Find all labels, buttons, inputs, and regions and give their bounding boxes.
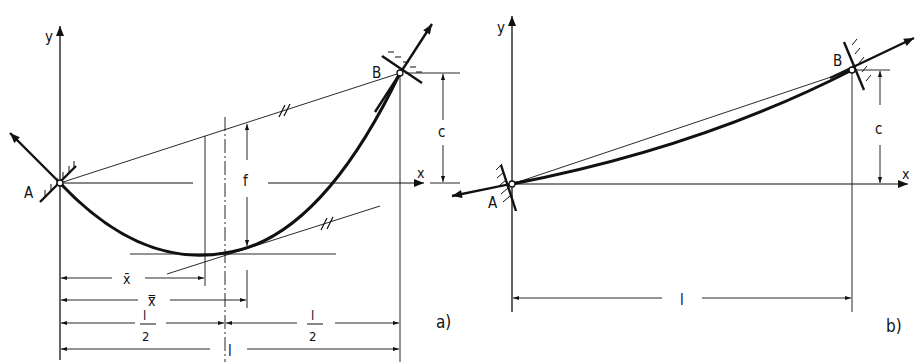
chord-ab-b <box>512 70 852 184</box>
point-a-label-a: A <box>24 184 34 202</box>
cable-sag-diagram: y x A B c f x̄ x̿ l 2 l 2 l a) <box>0 0 919 364</box>
panel-a <box>10 24 460 362</box>
panel-b <box>452 16 914 312</box>
panel-a-caption: a) <box>436 312 451 332</box>
panel-b-caption: b) <box>886 316 902 336</box>
xbar-label: x̄ <box>123 271 131 287</box>
c-label-a: c <box>438 123 445 141</box>
chord-ab-a <box>60 73 400 183</box>
support-b-panel-b <box>830 38 914 90</box>
half-l-num-2: l <box>311 308 314 323</box>
l-label-a: l <box>228 342 232 360</box>
y-axis-label-a: y <box>45 28 53 46</box>
y-axis-label-b: y <box>497 19 505 37</box>
l-label-b: l <box>680 291 684 309</box>
parallel-mark-tangent <box>321 217 333 230</box>
half-l-den-1: 2 <box>142 329 149 344</box>
xdbar-label: x̿ <box>148 293 156 309</box>
half-l-den-2: 2 <box>309 329 316 344</box>
x-axis-label-a: x <box>417 165 425 181</box>
point-b-label-b: B <box>833 52 842 70</box>
support-a-panel-a <box>10 133 80 203</box>
x-axis-label-b: x <box>902 166 910 182</box>
half-l-num-1: l <box>143 308 146 323</box>
support-b-panel-a <box>375 24 432 112</box>
point-a-label-b: A <box>488 194 498 212</box>
f-label: f <box>243 172 249 190</box>
point-b-label-a: B <box>372 64 381 82</box>
c-label-b: c <box>875 120 882 138</box>
tangent-line-a <box>167 206 380 274</box>
cable-curve-a <box>60 73 400 255</box>
